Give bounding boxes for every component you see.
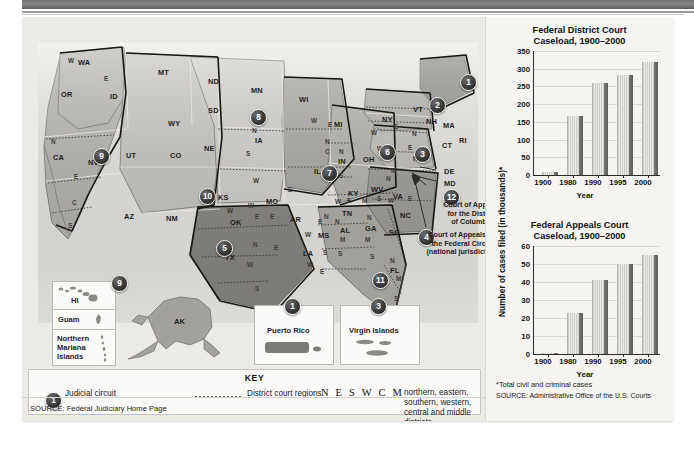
puerto-rico-shape	[259, 338, 333, 360]
inset-label-hawaii: HI	[71, 296, 79, 305]
district-letter: S	[246, 150, 250, 157]
state-label-NC: NC	[400, 211, 411, 220]
circuit-marker-1[interactable]: 1	[460, 74, 477, 91]
state-label-OK: OK	[230, 218, 242, 227]
chart2-gridline	[534, 264, 659, 265]
chart2-bar-side	[604, 280, 608, 354]
district-letter: W	[311, 117, 317, 124]
inset-northern-mariana: NorthernMarianaIslands	[52, 329, 116, 366]
chart1-gridline	[534, 51, 659, 52]
chart1-xaxis-title: Year	[510, 191, 660, 200]
state-label-MT: MT	[158, 68, 169, 77]
chart2-yticks: 60 50 40 30 20 10 0	[502, 246, 530, 354]
circuit-marker-puerto-rico-1[interactable]: 1	[284, 298, 301, 315]
district-letter: S	[255, 285, 259, 292]
chart1-xtick: 1995	[605, 178, 631, 187]
hawaii-islands-shape	[53, 282, 113, 308]
district-letter: N	[252, 127, 257, 134]
circuit-marker-10[interactable]: 10	[199, 188, 216, 205]
chart1-bar-side	[654, 62, 658, 175]
inset-label-nmi: NorthernMarianaIslands	[57, 334, 89, 361]
state-label-WI: WI	[299, 95, 308, 104]
chart1-ytick: 150	[517, 118, 530, 127]
inset-hawaii: HI	[52, 281, 116, 311]
district-letter: E	[318, 218, 322, 225]
chart1-bar-side	[579, 116, 583, 176]
state-label-DE: DE	[444, 167, 455, 176]
figure-frame: WA OR ID MT ND SD MN WI CA NV UT CO NE I…	[22, 17, 672, 421]
state-label-NM: NM	[166, 214, 178, 223]
chart1-bar-side	[604, 83, 608, 175]
district-letter: M	[396, 275, 401, 282]
circuit-marker-9[interactable]: 9	[93, 148, 110, 165]
chart1-ytick: 200	[517, 100, 530, 109]
district-letter: E	[320, 268, 324, 275]
state-label-FL: FL	[390, 266, 399, 275]
state-label-NH: NH	[426, 117, 437, 126]
circuit-marker-11[interactable]: 11	[372, 272, 389, 289]
annotation-dc-line3: of Columbia	[440, 218, 485, 227]
chart2-plot-area	[534, 246, 659, 354]
district-letter: E	[74, 173, 78, 180]
inset-label-virgin-islands: Virgin Islands	[349, 326, 399, 335]
state-label-AL: AL	[340, 226, 350, 235]
district-letter: S	[370, 253, 374, 260]
circuit-marker-8[interactable]: 8	[250, 109, 267, 126]
chart2-xaxis-line	[533, 354, 660, 355]
top-rule-1	[22, 11, 694, 13]
state-label-OH: OH	[363, 155, 375, 164]
district-letter: M	[340, 236, 345, 243]
circuit-marker-2[interactable]: 2	[429, 97, 446, 114]
district-letter: N	[339, 148, 344, 155]
state-label-MS: MS	[318, 231, 330, 240]
district-letter: S	[339, 172, 343, 179]
state-label-LA: LA	[303, 249, 313, 258]
state-label-UT: UT	[126, 151, 136, 160]
district-letter: E	[408, 195, 412, 202]
state-label-MN: MN	[251, 86, 263, 95]
chart-source: SOURCE: Administrative Office of the U.S…	[496, 391, 651, 401]
chart2-bar-side	[654, 255, 658, 354]
state-label-MD: MD	[444, 179, 456, 188]
state-label-NE: NE	[204, 144, 215, 153]
chart1-xtick: 2000	[630, 178, 656, 187]
chart1-xtick: 1990	[580, 178, 606, 187]
state-label-ND: ND	[208, 77, 219, 86]
district-letter: W	[248, 202, 254, 209]
district-letter: S	[323, 249, 327, 256]
district-letter: N	[386, 175, 391, 182]
circuit-marker-3[interactable]: 3	[414, 146, 431, 163]
district-letter: W	[68, 57, 74, 64]
state-label-WV: WV	[371, 185, 383, 194]
map-source-box: SOURCE: Federal Judiciary Home Page	[22, 397, 485, 421]
state-label-AZ: AZ	[124, 212, 134, 221]
state-label-GA: GA	[365, 224, 377, 233]
annotation-fed-line3: (national jurisdiction)	[420, 248, 485, 257]
annotation-federal-circuit: Court of Appeals for the Federal Circuit…	[420, 231, 485, 257]
chart2-ytick: 30	[521, 296, 530, 305]
district-letter: M	[362, 197, 367, 204]
map-source-text: SOURCE: Federal Judiciary Home Page	[30, 404, 167, 413]
state-label-IN: IN	[338, 157, 346, 166]
chart2-bar-side	[629, 264, 633, 354]
chart1-title-line2: Caseload, 1900–2000	[486, 36, 673, 47]
state-label-IL: IL	[314, 167, 321, 176]
circuit-marker-5[interactable]: 5	[216, 240, 233, 257]
chart2-xtick: 2000	[630, 357, 656, 366]
district-letter: E	[328, 121, 332, 128]
circuit-marker-7[interactable]: 7	[321, 165, 338, 182]
inset-alaska: AK	[118, 279, 238, 371]
circuit-marker-virgin-islands-3[interactable]: 3	[370, 298, 387, 315]
district-letter: M	[391, 167, 396, 174]
inset-label-puerto-rico: Puerto Rico	[267, 326, 310, 335]
chart2-title-line2: Caseload, 1900–2000	[486, 231, 673, 242]
chart2-ytick: 60	[521, 242, 530, 251]
chart1-yticks: 350 300 250 200 150 100 50 0	[502, 51, 530, 175]
chart1-ytick: 100	[517, 136, 530, 145]
state-label-WA: WA	[78, 58, 90, 67]
inset-guam: Guam	[52, 309, 116, 331]
chart1-yaxis-line	[533, 51, 534, 175]
chart2-ytick: 10	[521, 332, 530, 341]
circuit-marker-6[interactable]: 6	[379, 144, 396, 161]
chart1-ytick: 50	[521, 153, 530, 162]
